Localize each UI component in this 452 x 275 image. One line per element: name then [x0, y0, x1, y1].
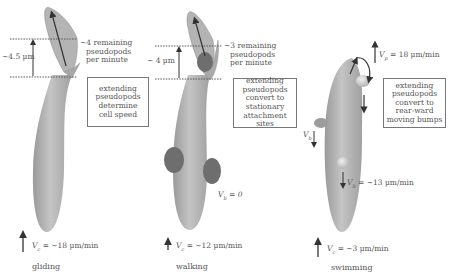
attachment-blob [164, 147, 184, 173]
pseudopod-rate-label: ~4 remaining pseudopods per minute [80, 39, 132, 65]
rearward-bump [314, 118, 328, 128]
mode-label-gliding: gliding [32, 262, 60, 271]
pseudopod-velocity-label: Vp = 18 µm/min [379, 50, 439, 61]
displacement-label: ~4.5 µm [2, 53, 35, 62]
explanation-box: extending pseudopods convert to stationa… [233, 78, 297, 128]
mode-label-swimming: swimming [331, 263, 373, 272]
rearward-bump [337, 157, 349, 169]
explanation-box: extending pseudopods convert to rear-war… [383, 78, 446, 128]
gliding-cell [33, 7, 80, 232]
cell-velocity-label: Vc = ~3 µm/min [327, 244, 389, 255]
bump-velocity-label: Vb = 0 [218, 190, 242, 201]
mode-label-walking: walking [176, 262, 208, 271]
explanation-box: extending pseudopods determine cell spee… [87, 77, 149, 127]
walking-cell [164, 12, 221, 230]
pseudopod-rate-label: ~3 remaining pseudopods per minute [224, 42, 276, 68]
rearward-bump [356, 75, 370, 87]
bump-velocity-label: Vb = ~13 µm/min [347, 178, 414, 189]
attachment-blob [203, 158, 221, 184]
cell-velocity-label: Vc = ~18 µm/min [32, 241, 98, 252]
side-bump-velocity-label: Vb [303, 130, 312, 141]
displacement-label: ~ 4 µm [147, 57, 175, 66]
cell-velocity-label: Vc = ~12 µm/min [176, 241, 242, 252]
swimming-cell [314, 58, 370, 232]
